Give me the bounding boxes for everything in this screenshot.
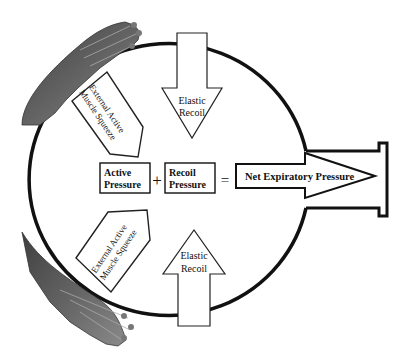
active-pressure-line2: Pressure: [104, 179, 141, 190]
elastic-recoil-top-line1: Elastic: [178, 95, 206, 106]
muscle-squeeze-arrow-bottom: External Active Muscle Squeeze: [76, 210, 150, 292]
net-expiratory-pressure-label: Net Expiratory Pressure: [245, 171, 355, 182]
active-pressure-line1: Active: [104, 167, 132, 178]
recoil-pressure-line2: Pressure: [169, 179, 206, 190]
active-pressure-box: Active Pressure: [100, 163, 150, 193]
muscle-squeeze-arrow-top: External Active Muscle Squeeze: [72, 72, 143, 157]
elastic-recoil-bottom-line2: Recoil: [181, 263, 207, 274]
elastic-recoil-arrow-bottom: Elastic Recoil: [163, 230, 225, 326]
elastic-recoil-top-line2: Recoil: [179, 107, 205, 118]
elastic-recoil-bottom-line1: Elastic: [180, 250, 208, 261]
recoil-pressure-box: Recoil Pressure: [165, 163, 215, 193]
recoil-pressure-line1: Recoil: [169, 167, 196, 178]
expiratory-pressure-diagram: Elastic Recoil Elastic Recoil External A…: [0, 0, 407, 358]
plus-operator: +: [152, 171, 162, 190]
net-expiratory-pressure-arrow: Net Expiratory Pressure: [236, 153, 375, 198]
equals-operator: =: [221, 172, 229, 188]
